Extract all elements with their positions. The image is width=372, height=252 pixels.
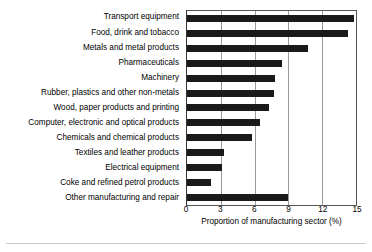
- bar-row: [187, 41, 356, 56]
- bar: [187, 134, 252, 141]
- x-tick-label: 3: [218, 206, 223, 214]
- category-label: Computer, electronic and optical product…: [0, 116, 183, 131]
- bar-series: [187, 11, 356, 205]
- bar-row: [187, 115, 356, 130]
- category-label: Metals and metal products: [0, 40, 183, 55]
- category-label: Wood, paper products and printing: [0, 100, 183, 115]
- bar: [187, 90, 274, 97]
- bar: [187, 75, 275, 82]
- bar: [187, 194, 288, 201]
- bar-row: [187, 190, 356, 205]
- category-label: Rubber, plastics and other non-metals: [0, 85, 183, 100]
- category-label: Machinery: [0, 70, 183, 85]
- category-label: Textiles and leather products: [0, 146, 183, 161]
- bar: [187, 104, 269, 111]
- x-tick-label: 9: [286, 206, 291, 214]
- plot-area: [186, 10, 357, 206]
- bar: [187, 15, 354, 22]
- x-tick-label: 0: [184, 206, 189, 214]
- bar-row: [187, 175, 356, 190]
- category-label: Transport equipment: [0, 10, 183, 25]
- bar: [187, 164, 222, 171]
- bar: [187, 179, 211, 186]
- bar-row: [187, 160, 356, 175]
- bar: [187, 45, 308, 52]
- bar-row: [187, 101, 356, 116]
- category-label: Other manufacturing and repair: [0, 191, 183, 206]
- category-label: Pharmaceuticals: [0, 55, 183, 70]
- bar: [187, 30, 348, 37]
- bar-chart: Transport equipment Food, drink and toba…: [0, 0, 372, 252]
- bar-row: [187, 11, 356, 26]
- bar-row: [187, 130, 356, 145]
- x-axis-title: Proportion of manufacturing sector (%): [186, 218, 357, 226]
- bar: [187, 119, 260, 126]
- gridline: [356, 11, 357, 205]
- bar-row: [187, 71, 356, 86]
- bottom-divider: [6, 243, 366, 244]
- category-label: Coke and refined petrol products: [0, 176, 183, 191]
- bar-row: [187, 56, 356, 71]
- category-label: Electrical equipment: [0, 161, 183, 176]
- bar-row: [187, 145, 356, 160]
- x-tick-label: 15: [352, 206, 361, 214]
- category-label: Chemicals and chemical products: [0, 131, 183, 146]
- category-axis: Transport equipment Food, drink and toba…: [0, 10, 183, 206]
- bar: [187, 60, 282, 67]
- category-label: Food, drink and tobacco: [0, 25, 183, 40]
- bar: [187, 149, 224, 156]
- bar-row: [187, 26, 356, 41]
- x-tick-label: 6: [252, 206, 257, 214]
- x-tick-label: 12: [318, 206, 327, 214]
- bar-row: [187, 86, 356, 101]
